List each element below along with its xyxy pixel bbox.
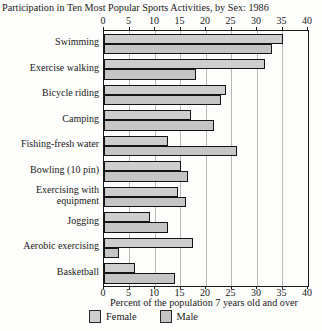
x-tick-label-top-35: 35: [270, 15, 294, 26]
x-tick-bottom-15: [180, 286, 181, 289]
x-tick-bottom-10: [154, 286, 155, 289]
bar-exercise-walking-female: [104, 59, 265, 69]
x-tick-label-top-0: 0: [91, 15, 115, 26]
x-axis-label: Percent of the population 7 years old an…: [0, 297, 322, 308]
bar-basketball-female: [104, 263, 135, 273]
x-tick-bottom-30: [256, 286, 257, 289]
x-tick-label-top-30: 30: [244, 15, 268, 26]
bar-jogging-female: [104, 212, 150, 222]
chart-figure: Participation in Ten Most Popular Sports…: [0, 0, 322, 331]
bar-bicycle-riding-female: [104, 85, 226, 95]
bar-camping-female: [104, 110, 191, 120]
x-tick-top-10: [154, 27, 155, 30]
x-tick-top-35: [282, 27, 283, 30]
legend-item-female: Female: [89, 310, 137, 323]
x-tick-label-top-15: 15: [168, 15, 192, 26]
legend: Female Male: [89, 310, 198, 323]
category-label-jogging: Jogging: [0, 209, 99, 235]
x-tick-bottom-40: [307, 286, 308, 289]
x-tick-top-30: [256, 27, 257, 30]
bar-bowling-10-pin-male: [104, 171, 188, 181]
category-label-exercise-walking: Exercise walking: [0, 56, 99, 82]
bar-bowling-10-pin-female: [104, 161, 181, 171]
x-tick-top-40: [307, 27, 308, 30]
bar-aerobic-exercising-male: [104, 248, 119, 258]
bar-bicycle-riding-male: [104, 95, 221, 105]
category-label-basketball: Basketball: [0, 260, 99, 286]
x-tick-label-top-25: 25: [219, 15, 243, 26]
x-tick-bottom-20: [205, 286, 206, 289]
chart-title: Participation in Ten Most Popular Sports…: [2, 2, 322, 13]
legend-label-female: Female: [106, 311, 137, 322]
bar-swimming-male: [104, 44, 272, 54]
legend-label-male: Male: [177, 311, 198, 322]
category-label-aerobic-exercising: Aerobic exercising: [0, 234, 99, 260]
bar-camping-male: [104, 120, 214, 130]
x-tick-bottom-0: [103, 286, 104, 289]
bar-aerobic-exercising-female: [104, 238, 193, 248]
category-label-fishing-fresh-water: Fishing-fresh water: [0, 132, 99, 158]
x-tick-top-25: [231, 27, 232, 30]
category-label-bicycle-riding: Bicycle riding: [0, 81, 99, 107]
x-tick-bottom-25: [231, 286, 232, 289]
x-tick-top-15: [180, 27, 181, 30]
bar-fishing-fresh-water-male: [104, 146, 237, 156]
category-label-swimming: Swimming: [0, 30, 99, 56]
bar-basketball-male: [104, 273, 175, 283]
x-tick-label-top-20: 20: [193, 15, 217, 26]
bar-exercising-with-equipment-female: [104, 187, 178, 197]
gridline-35: [282, 31, 283, 286]
plot-area: [103, 30, 309, 287]
female-swatch: [89, 310, 101, 323]
x-tick-label-top-10: 10: [142, 15, 166, 26]
category-label-camping: Camping: [0, 107, 99, 133]
bar-exercise-walking-male: [104, 69, 196, 79]
legend-item-male: Male: [160, 310, 198, 323]
x-tick-bottom-35: [282, 286, 283, 289]
x-tick-label-top-5: 5: [117, 15, 141, 26]
x-tick-top-5: [129, 27, 130, 30]
x-tick-top-20: [205, 27, 206, 30]
bar-fishing-fresh-water-female: [104, 136, 168, 146]
bar-jogging-male: [104, 222, 168, 232]
x-tick-top-0: [103, 27, 104, 30]
category-label-bowling-10-pin: Bowling (10 pin): [0, 158, 99, 184]
male-swatch: [160, 310, 172, 323]
x-tick-bottom-5: [129, 286, 130, 289]
category-label-exercising-with-equipment: Exercising with equipment: [0, 183, 99, 209]
x-tick-label-top-40: 40: [295, 15, 319, 26]
bar-exercising-with-equipment-male: [104, 197, 186, 207]
bar-swimming-female: [104, 34, 283, 44]
